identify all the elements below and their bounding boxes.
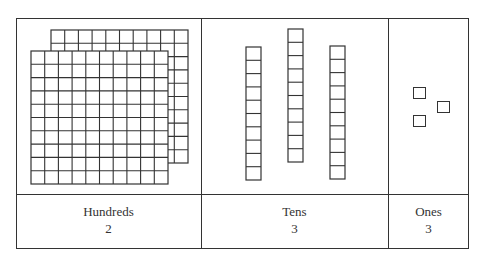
ones-cube-3 <box>413 115 426 127</box>
ones-title: Ones <box>388 203 469 220</box>
ones-label: Ones 3 <box>388 203 469 237</box>
divider-blocks-labels <box>16 194 469 195</box>
tens-title: Tens <box>201 203 388 220</box>
hundreds-title: Hundreds <box>16 203 201 220</box>
tens-rod-3 <box>329 45 347 182</box>
tens-count: 3 <box>201 220 388 237</box>
ones-count: 3 <box>388 220 469 237</box>
ones-cube-2 <box>437 101 450 113</box>
tens-label: Tens 3 <box>201 203 388 237</box>
hundreds-flat-front <box>30 50 170 187</box>
hundreds-count: 2 <box>16 220 201 237</box>
ones-cube-1 <box>413 87 426 99</box>
tens-rod-1 <box>245 46 263 183</box>
hundreds-label: Hundreds 2 <box>16 203 201 237</box>
tens-rod-2 <box>287 28 305 165</box>
